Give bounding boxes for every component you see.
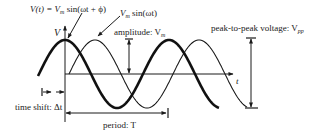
reference-wave-equation: Vm sin(ωt) [120,8,157,19]
shifted-wave-pointer [68,13,82,38]
peak-to-peak-label: peak-to-peak voltage: Vpp [211,23,304,34]
y-axis-label: V [54,27,62,38]
sinusoid-diagram: V t V(t) = Vm sin(ωt + ϕ) Vm sin(ωt) amp… [0,0,314,136]
period-label: period: T [103,120,137,130]
time-shift-label: time shift: Δt [15,102,63,112]
x-axis-label: t [236,76,239,86]
amplitude-label: amplitude: Vm [114,27,166,38]
shifted-wave-equation: V(t) = Vm sin(ωt + ϕ) [30,4,106,15]
